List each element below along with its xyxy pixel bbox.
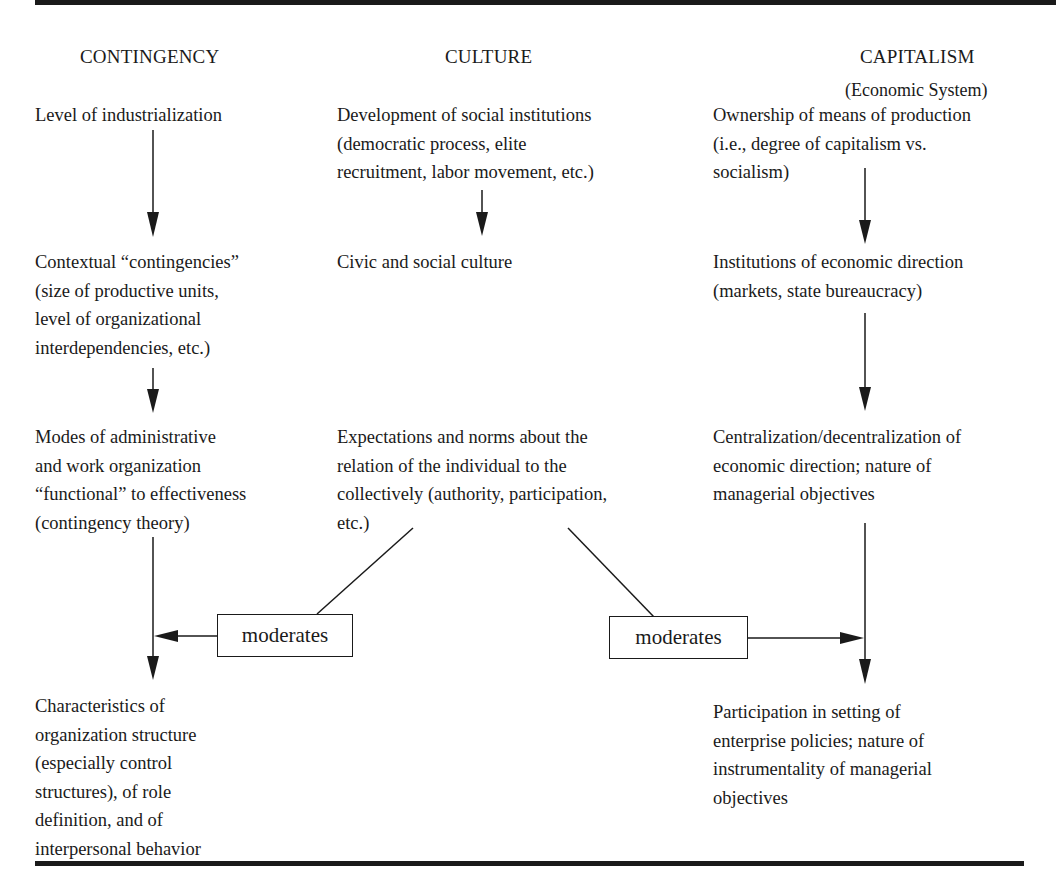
- node-participation-in-setting: Participation in setting of enterprise p…: [713, 698, 932, 812]
- arrow-industrialization-to-contingencies: [147, 130, 159, 237]
- line-expectations-to-moderates-right: [568, 528, 654, 617]
- node-characteristics-of-organization: Characteristics of organization structur…: [35, 692, 201, 863]
- moderates-box-left: moderates: [217, 614, 353, 657]
- node-contextual-contingencies: Contextual “contingencies” (size of prod…: [35, 248, 239, 362]
- arrow-moderates-right-to-capitalism: [747, 632, 864, 644]
- node-centralization-decentralization: Centralization/decentralization of econo…: [713, 423, 961, 509]
- header-capitalism: CAPITALISM: [860, 46, 975, 68]
- arrow-institutions-to-civic-culture: [476, 190, 488, 236]
- node-ownership-of-means-of-production: Ownership of means of production (i.e., …: [713, 101, 971, 187]
- node-level-of-industrialization: Level of industrialization: [35, 101, 222, 130]
- arrow-institutions-to-centralization: [859, 313, 871, 411]
- node-civic-and-social-culture: Civic and social culture: [337, 248, 512, 277]
- moderates-box-right: moderates: [609, 616, 748, 659]
- arrow-contingencies-to-modes: [147, 368, 159, 413]
- node-modes-of-administrative: Modes of administrative and work organiz…: [35, 423, 246, 537]
- line-expectations-to-moderates-left: [317, 528, 413, 614]
- header-contingency: CONTINGENCY: [80, 46, 219, 68]
- arrow-modes-to-characteristics: [147, 537, 159, 680]
- node-expectations-and-norms: Expectations and norms about the relatio…: [337, 423, 607, 537]
- header-culture: CULTURE: [445, 46, 532, 68]
- node-institutions-of-economic-direction: Institutions of economic direction (mark…: [713, 248, 963, 305]
- node-development-of-social-institutions: Development of social institutions (demo…: [337, 101, 594, 187]
- arrow-centralization-to-participation: [859, 523, 871, 684]
- arrow-moderates-left-to-contingency: [154, 630, 217, 642]
- subheader-economic-system: (Economic System): [845, 80, 987, 101]
